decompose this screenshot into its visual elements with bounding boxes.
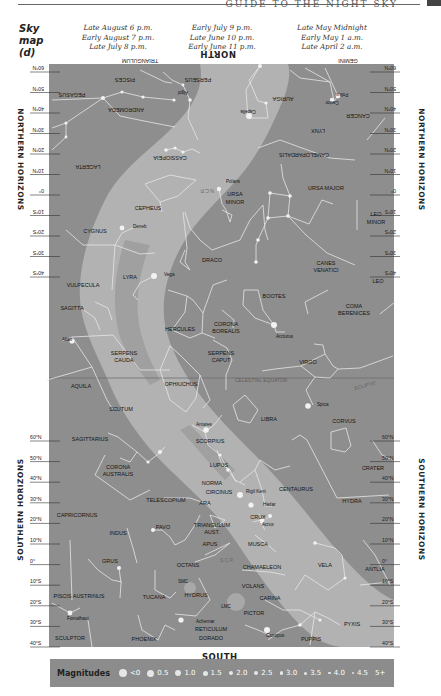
latitude-tick-label: 40°N [384,106,396,112]
constellation-label: PICTOR [244,610,265,616]
constellation-label: VENATICI [314,267,339,273]
latitude-tick-label: 10°N [384,168,396,174]
latitude-tick-label: 30°S [32,250,44,256]
star-dot-icon [304,672,307,675]
legend-item: 4.0 [328,669,345,677]
latitude-tick-label: 30°S [30,619,42,625]
latitude-tick-label: 20°N [32,147,44,153]
constellation-label: PEGASUS [58,92,85,98]
constellation-label: LEO [370,211,382,217]
latitude-tick-label: 40°S [384,270,396,276]
star-dot-icon [203,671,208,676]
legend-item: 1.0 [175,669,195,677]
legend-label: 3.0 [286,669,297,677]
constellation-label: CAUDA [114,357,134,363]
latitude-tick-label: 30°N [384,127,396,133]
latitude-tick-label: 20°N [384,147,396,153]
legend-label: 3.5 [310,669,321,677]
constellation-label: PUPPIS [301,636,322,642]
constellation-label: SAGITTA [60,305,83,311]
legend-item: 3.0 [280,669,298,677]
constellation-label: DRACO [202,257,223,263]
latitude-tick-label: 10°N [30,537,42,543]
constellation-label: SERPENS [111,350,138,356]
latitude-tick-label: 20°S [384,229,396,235]
constellation-label: LUPUS [210,462,229,468]
latitude-tick-label: 10°S [32,209,44,215]
constellation-label: OCTANS [177,562,200,568]
legend-label: 1.0 [184,669,195,677]
constellation-label: DORADO [199,635,224,641]
latitude-tick-label: 20°N [382,516,394,522]
star-dot-icon [352,672,354,674]
magnitude-legend: Magnitudes <00.51.01.52.02.53.03.54.04.5… [50,659,394,687]
latitude-tick-label: 40°S [32,270,44,276]
cloud-label: SMC [178,579,189,584]
star-label: Castor [325,100,339,105]
legend-label: 5+ [375,669,385,677]
constellation-label: LYRA [123,274,137,280]
constellation-label: INDUS [109,530,126,536]
star-label: Algol [178,90,188,95]
constellation-label: PISCIS AUSTRINUS [53,593,104,599]
latitude-tick-label: 40°N [382,475,394,481]
constellation-label: TUCANA [143,594,166,600]
constellation-label: TRIANGULUM [121,58,158,64]
legend-label: 0.5 [157,669,168,677]
latitude-tick-label: 40°S [30,640,42,646]
constellation-label: CIRCINUS [206,489,233,495]
ncp-label: N.C.P. [200,188,214,194]
star-label: Rigil Kent [246,489,266,494]
constellation-label: RETICULUM [195,626,228,632]
constellation-label: CASSIOPEIA [153,155,187,161]
latitude-tick-label: 10°S [382,578,394,584]
constellation-label: ANDROMEDA [108,107,144,113]
star-label: Hadar [263,502,276,507]
constellation-label: MUSCA [248,541,268,547]
constellation-label: CORONA [214,321,238,327]
constellation-label: ANTLIA [365,566,385,572]
star-label: Antares [196,422,213,427]
latitude-tick-label: 10°N [382,537,394,543]
legend-item: 2.0 [229,669,248,677]
constellation-label: GEMINI [338,58,358,64]
latitude-tick-label: 0° [30,558,35,564]
constellation-label: SCORPIUS [196,438,225,444]
constellation-label: CANES [317,260,336,266]
constellation-label: LACERTA [75,164,100,170]
latitude-tick-label: 20°S [382,599,394,605]
constellation-label: CRUX [250,514,266,520]
sky-map[interactable]: CELESTIAL EQUATOR ECLIPTIC N.C.P. S.C.P. [0,0,441,696]
constellation-label: HYDRA [342,498,362,504]
constellation-label: GRUS [102,558,118,564]
star-label: Spica [317,402,329,407]
constellation-label: URSA [227,191,243,197]
constellation-label: CORVUS [332,418,356,424]
star-dot-icon [147,670,154,677]
star-dot-icon [328,672,331,675]
latitude-tick-label: 60°N [32,65,44,71]
celestial-equator-label: CELESTIAL EQUATOR [235,377,288,383]
latitude-tick-label: 30°N [30,496,42,502]
constellation-label: TELESCOPIUM [146,497,186,503]
star-label: Arcturus [276,334,294,339]
constellation-label: PAVO [156,524,171,530]
star-label: Deneb [133,224,147,229]
latitude-tick-label: 60°N [30,434,42,440]
constellation-label: PHOENIX [132,636,157,642]
latitude-tick-label: 30°S [384,250,396,256]
star-label: Acrux [262,522,274,527]
constellation-label: VELA [318,562,332,568]
constellation-label: BOOTES [263,293,286,299]
star-label: Capella [240,109,256,114]
latitude-tick-label: 40°N [32,106,44,112]
constellation-label: CAMELOPARDALIS [279,152,329,158]
constellation-label: SERPENS [208,350,235,356]
star-dot-icon [229,671,234,676]
cloud-label: LMC [221,604,231,609]
constellation-label: VOLANS [242,583,265,589]
legend-items: <00.51.01.52.02.53.03.54.04.55+ [119,669,392,677]
latitude-tick-label: 20°S [32,229,44,235]
legend-item: 4.5 [352,669,368,677]
constellation-label: AURIGA [272,96,293,102]
